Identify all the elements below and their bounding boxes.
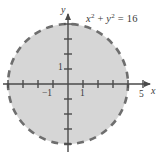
coordinate-plane-graphic — [0, 0, 164, 160]
y-tick-label-1: 1 — [58, 63, 63, 73]
y-axis-label: y — [61, 5, 65, 15]
x-tick-label-5: 5 — [139, 90, 144, 100]
equation-equals-value: = 16 — [115, 13, 138, 24]
x-tick-label-1: 1 — [80, 89, 85, 99]
x-axis-label: x — [151, 86, 155, 96]
equation-plus: + — [95, 13, 107, 24]
equation-annotation: x2 + y2 = 16 — [86, 14, 138, 25]
x-tick-label-negative-1: −1 — [42, 89, 52, 99]
figure-container: x2 + y2 = 16 y x 1 −1 1 5 — [0, 0, 164, 160]
